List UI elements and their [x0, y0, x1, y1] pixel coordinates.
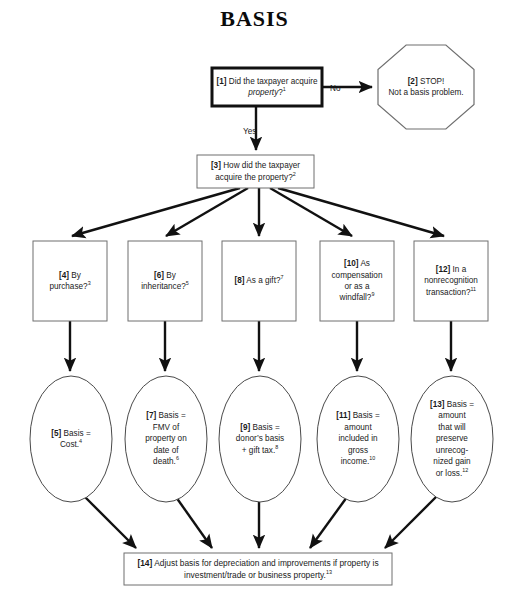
result-ellipse-7-basis-fmv-date-of-death[interactable] — [125, 376, 207, 502]
edge-3-to-10 — [270, 188, 352, 236]
edge-11-to-14 — [310, 497, 347, 548]
result-ellipse-5-basis-cost[interactable] — [30, 376, 112, 502]
result-ellipse-9-basis-donors-basis-plus-gift-tax[interactable] — [219, 376, 301, 502]
option-box-8-as-a-gift[interactable] — [222, 241, 296, 321]
edge-3-to-4 — [72, 188, 240, 236]
edge-3-to-6 — [166, 188, 248, 236]
edge-5-to-14 — [84, 496, 136, 548]
option-box-10-as-compensation-or-windfall[interactable] — [320, 241, 394, 321]
flowchart-shapes — [0, 0, 509, 590]
edge-3-to-12 — [278, 188, 444, 236]
decision-box-1-acquire-property[interactable] — [212, 68, 322, 106]
option-box-12-nonrecognition-transaction[interactable] — [414, 241, 488, 321]
result-ellipse-11-basis-amount-in-gross-income[interactable] — [317, 376, 399, 502]
decision-box-3-how-acquired[interactable] — [197, 155, 314, 188]
outcome-box-14-adjust-basis[interactable] — [124, 553, 392, 585]
nodes-group — [30, 45, 493, 585]
flowchart-page: BASIS [1] Did the taxpayer acquire prope… — [0, 0, 509, 590]
stop-octagon-2-not-a-basis-problem[interactable] — [378, 45, 474, 129]
edge-7-to-14 — [176, 497, 212, 548]
edge-label-no: No — [330, 84, 340, 93]
option-box-4-by-purchase[interactable] — [33, 241, 107, 321]
option-box-6-by-inheritance[interactable] — [128, 241, 202, 321]
result-ellipse-13-basis-preserve-unrecognized-gain-or-loss[interactable] — [411, 376, 493, 502]
edge-13-to-14 — [385, 496, 437, 548]
edge-label-yes: Yes — [243, 127, 256, 136]
